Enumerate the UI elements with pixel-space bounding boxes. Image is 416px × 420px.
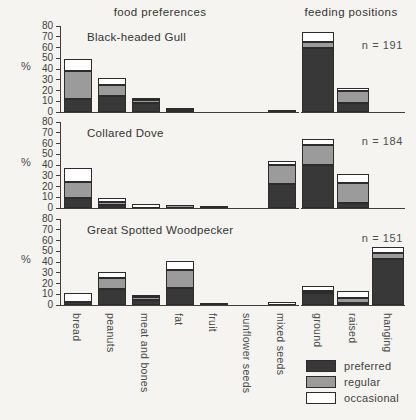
- bar-segment-preferred: [337, 203, 369, 208]
- bar-segment-regular: [337, 183, 369, 202]
- y-tick: [56, 165, 61, 166]
- bar-segment-preferred: [268, 184, 296, 208]
- bar-slot-meat-and-bones: [129, 26, 163, 112]
- legend-swatch-regular: [306, 376, 336, 388]
- bar-segment-regular: [64, 71, 92, 99]
- bar-segment-preferred: [98, 289, 126, 305]
- y-tick: [56, 294, 61, 295]
- bar-slot-sunflower-seeds: [231, 219, 265, 305]
- stacked-bar-peanuts: [98, 78, 126, 112]
- stacked-bar-raised: [337, 88, 369, 112]
- food-chart-collared-dove: Collared Dove 80706050403020100: [60, 122, 299, 209]
- y-tick: [56, 36, 61, 37]
- bar-segment-preferred: [64, 198, 92, 208]
- stacked-bar-ground: [302, 286, 334, 305]
- bar-slot-raised: [336, 26, 371, 112]
- stacked-bar-mixed-seeds: [268, 161, 296, 208]
- bar-slot-bread: [61, 219, 95, 305]
- bar-segment-regular: [64, 182, 92, 198]
- y-tick: [56, 143, 61, 144]
- bar-segment-preferred: [302, 293, 334, 305]
- feeding-positions-title: feeding positions: [295, 6, 407, 18]
- bar-slot-hanging: [370, 26, 405, 112]
- y-tick: [56, 197, 61, 198]
- bar-segment-occasional: [337, 174, 369, 184]
- bar-segment-preferred: [166, 110, 194, 112]
- bar-segment-preferred: [200, 303, 228, 305]
- y-tick: [56, 251, 61, 252]
- legend-swatch-preferred: [306, 360, 336, 372]
- bar-segment-regular: [268, 165, 296, 184]
- stacked-bar-meat-and-bones: [132, 204, 160, 208]
- x-label-slot: fat: [162, 310, 196, 392]
- bar-segment-preferred: [302, 48, 334, 113]
- bar-slot-ground: [301, 219, 336, 305]
- bar-slot-bread: [61, 122, 95, 208]
- bar-slot-ground: [301, 26, 336, 112]
- bar-slot-ground: [301, 122, 336, 208]
- y-tick: [56, 229, 61, 230]
- figure: food preferences feeding positions % % %…: [0, 0, 416, 420]
- bar-segment-regular: [337, 91, 369, 104]
- bar-segment-preferred: [132, 103, 160, 112]
- bar-slot-meat-and-bones: [129, 219, 163, 305]
- stacked-bar-bread: [64, 293, 92, 305]
- x-category-label: fat: [173, 310, 185, 392]
- bar-segment-occasional: [64, 59, 92, 71]
- legend-item-regular: regular: [306, 374, 399, 390]
- bar-segment-occasional: [132, 204, 160, 208]
- y-tick: [56, 262, 61, 263]
- bar-slot-fruit: [197, 26, 231, 112]
- bar-slot-raised: [336, 122, 371, 208]
- y-tick: [56, 240, 61, 241]
- bar-slot-peanuts: [95, 219, 129, 305]
- bar-slot-raised: [336, 219, 371, 305]
- bar-segment-regular: [166, 205, 194, 208]
- bar-segment-preferred: [302, 165, 334, 208]
- food-category-labels: breadpeanutsmeat and bonesfatfruitsunflo…: [60, 310, 298, 392]
- y-tick-label: 0: [29, 299, 53, 311]
- bar-segment-preferred: [98, 96, 126, 112]
- legend-label-preferred: preferred: [344, 360, 391, 372]
- y-tick: [56, 272, 61, 273]
- y-tick: [56, 175, 61, 176]
- y-tick: [56, 26, 61, 27]
- stacked-bar-fat: [166, 261, 194, 305]
- bar-segment-preferred: [98, 205, 126, 208]
- x-category-label: mixed seeds: [275, 310, 287, 392]
- legend: preferred regular occasional: [306, 358, 399, 406]
- stacked-bar-mixed-seeds: [268, 302, 296, 305]
- x-label-slot: sunflower seeds: [230, 310, 264, 392]
- bar-segment-occasional: [268, 302, 296, 305]
- positions-chart-black-headed-gull: n = 191: [301, 26, 405, 113]
- y-tick: [56, 58, 61, 59]
- stacked-bar-meat-and-bones: [132, 98, 160, 112]
- bar-slot-hanging: [370, 219, 405, 305]
- x-category-label: peanuts: [105, 310, 117, 392]
- stacked-bar-peanuts: [98, 272, 126, 305]
- stacked-bar-ground: [302, 139, 334, 208]
- bar-segment-occasional: [98, 78, 126, 86]
- legend-item-occasional: occasional: [306, 390, 399, 406]
- stacked-bar-hanging: [372, 247, 404, 305]
- bar-segment-occasional: [302, 32, 334, 42]
- stacked-bar-meat-and-bones: [132, 295, 160, 305]
- bar-segment-preferred: [372, 259, 404, 305]
- y-tick: [56, 132, 61, 133]
- food-chart-great-spotted-woodpecker: Great Spotted Woodpecker 807060504030201…: [60, 219, 299, 306]
- stacked-bar-mixed-seeds: [268, 110, 296, 112]
- stacked-bar-bread: [64, 168, 92, 208]
- bar-slot-bread: [61, 26, 95, 112]
- bar-segment-preferred: [337, 103, 369, 112]
- x-category-label: fruit: [207, 310, 219, 392]
- bar-segment-occasional: [64, 168, 92, 182]
- x-label-slot: mixed seeds: [264, 310, 298, 392]
- bar-slot-sunflower-seeds: [231, 122, 265, 208]
- bar-segment-regular: [98, 278, 126, 289]
- food-preferences-title: food preferences: [44, 6, 276, 18]
- bar-segment-preferred: [132, 300, 160, 305]
- y-tick: [56, 186, 61, 187]
- bar-slot-fruit: [197, 219, 231, 305]
- stacked-bar-bread: [64, 59, 92, 112]
- y-tick: [56, 69, 61, 70]
